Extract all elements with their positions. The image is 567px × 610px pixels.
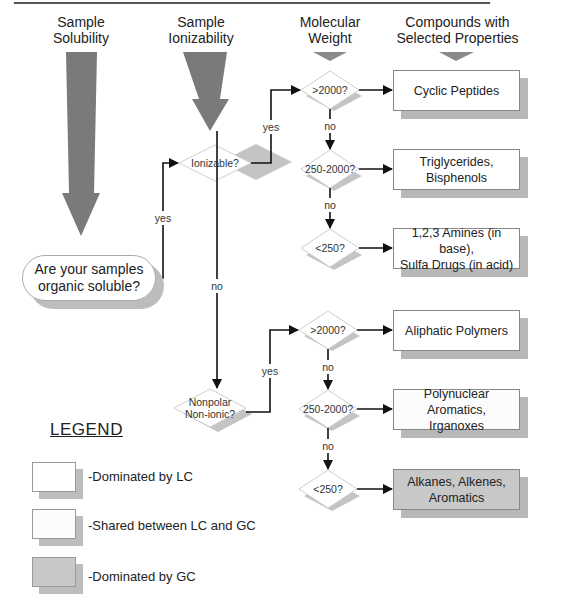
result-cyclic-peptides: Cyclic Peptides <box>393 70 520 111</box>
decision-nonpolar-label: Nonpolar Non-ionic? <box>185 396 235 420</box>
legend-label-shared: -Shared between LC and GC <box>88 518 256 533</box>
edge-label-ionizable-no: no <box>211 279 223 293</box>
result-triglycerides-bisphenols: Triglycerides, Bisphenols <box>393 149 520 190</box>
decision-np-gt2000-label: >2000? <box>310 324 345 336</box>
diamond-shadows <box>184 81 362 511</box>
ionizability-arrow-icon <box>183 52 229 131</box>
result-aliphatic-polymers: Aliphatic Polymers <box>393 310 520 351</box>
edge-label-np-no-1: no <box>322 360 334 374</box>
solubility-arrow-icon <box>62 52 100 236</box>
result-label: Alkanes, Alkenes, Aromatics <box>407 474 506 506</box>
result-label: Triglycerides, Bisphenols <box>420 154 494 186</box>
connectors <box>155 90 392 489</box>
legend-title: LEGEND <box>50 420 123 440</box>
header-sample-ionizability: Sample Ionizability <box>155 14 247 46</box>
result-label: Cyclic Peptides <box>414 83 499 99</box>
compounds-arrow-icon <box>439 52 474 61</box>
header-compounds: Compounds with Selected Properties <box>385 14 530 46</box>
edge-label-soluble-yes: yes <box>155 211 171 225</box>
result-label: Polynuclear Aromatics, Irganoxes <box>394 386 519 434</box>
result-label: Aliphatic Polymers <box>405 323 508 339</box>
result-label: 1,2,3 Amines (in base), Sulfa Drugs (in … <box>394 225 519 273</box>
decision-ion-gt2000-label: >2000? <box>312 84 347 96</box>
edge-label-ion-no-2: no <box>324 198 336 212</box>
start-node-organic-soluble: Are your samples organic soluble? <box>22 255 156 301</box>
legend-swatch-gc <box>32 557 76 587</box>
header-sample-solubility: Sample Solubility <box>40 14 122 46</box>
result-alkanes-alkenes-aromatics: Alkanes, Alkenes, Aromatics <box>393 469 520 510</box>
edge-label-np-no-2: no <box>322 439 334 453</box>
decision-ion-lt250-label: <250? <box>315 242 345 254</box>
legend-label-lc: -Dominated by LC <box>88 469 193 484</box>
edge-label-nonpolar-yes: yes <box>262 364 278 378</box>
decision-np-lt250-label: <250? <box>313 483 343 495</box>
header-molecular-weight: Molecular Weight <box>285 14 375 46</box>
molecular-weight-arrow-icon <box>313 52 347 61</box>
legend-swatch-shared <box>32 509 76 539</box>
edge-label-ionizable-yes: yes <box>263 120 279 134</box>
legend-label-gc: -Dominated by GC <box>88 569 196 584</box>
decision-np-250-2000-label: 250-2000? <box>303 403 353 415</box>
decision-ion-250-2000-label: 250-2000? <box>305 163 355 175</box>
edge-label-ion-no-1: no <box>324 119 336 133</box>
result-polynuclear-aromatics: Polynuclear Aromatics, Irganoxes <box>393 389 520 430</box>
result-amines-sulfa-drugs: 1,2,3 Amines (in base), Sulfa Drugs (in … <box>393 228 520 269</box>
legend-swatch-lc <box>32 462 76 492</box>
decision-ionizable-label: Ionizable? <box>191 157 239 169</box>
